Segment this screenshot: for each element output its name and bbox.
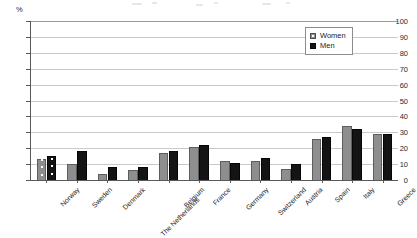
bar-women: [67, 164, 77, 180]
x-tick: [383, 180, 384, 183]
bar-women: [251, 161, 261, 180]
bar-women: [373, 134, 383, 180]
x-tick: [352, 180, 353, 183]
bar-men: [291, 164, 301, 180]
x-axis-label: The Netherlands: [159, 196, 201, 238]
legend-label-men: Men: [320, 42, 335, 50]
bar-women: [342, 126, 352, 180]
bar-group: [245, 21, 276, 180]
bar-group: [92, 21, 123, 180]
x-axis-label: Austria: [303, 186, 323, 206]
bar-group: [215, 21, 246, 180]
scan-noise-artifact: [0, 0, 408, 12]
bar-men: [169, 151, 179, 180]
bar-group: [367, 21, 398, 180]
bar-women: [312, 139, 322, 180]
bar-women: [128, 170, 138, 180]
x-axis-label: Spain: [333, 186, 351, 204]
x-tick: [169, 180, 170, 183]
x-tick: [46, 180, 47, 183]
bar-group: [276, 21, 307, 180]
chart-legend: Women Men: [305, 27, 353, 55]
bar-men: [77, 151, 87, 180]
x-tick: [138, 180, 139, 183]
bar-men: [383, 134, 393, 180]
bar-men: [230, 163, 240, 180]
x-tick: [199, 180, 200, 183]
x-axis-label: Sweden: [90, 186, 113, 209]
bar-men: [138, 167, 148, 180]
bar-women: [98, 174, 108, 180]
bar-group: [62, 21, 93, 180]
x-axis-label: Italy: [362, 186, 376, 200]
x-tick: [107, 180, 108, 183]
bar-group: [123, 21, 154, 180]
y-axis-unit-label: %: [16, 6, 23, 14]
x-tick: [291, 180, 292, 183]
bar-women: [189, 147, 199, 180]
bar-group: [153, 21, 184, 180]
bar-group: [31, 21, 62, 180]
bar-men: [199, 145, 209, 180]
x-axis-label: Greece: [395, 186, 416, 207]
bar-women: [159, 153, 169, 180]
bar-men: [322, 137, 332, 180]
women-swatch-icon: [310, 33, 316, 39]
x-axis-label: Norway: [59, 186, 81, 208]
bar-men: [108, 167, 118, 180]
x-axis-label: Germany: [244, 186, 269, 211]
bar-women: [220, 161, 230, 180]
x-axis-line: [30, 180, 398, 181]
bar-women: [281, 169, 291, 180]
legend-label-women: Women: [320, 32, 346, 40]
bar-men: [47, 156, 57, 180]
bar-men: [261, 158, 271, 180]
x-tick: [322, 180, 323, 183]
x-axis-label: Denmark: [122, 186, 147, 211]
x-tick: [230, 180, 231, 183]
bar-group: [184, 21, 215, 180]
x-tick: [260, 180, 261, 183]
men-swatch-icon: [310, 43, 316, 49]
bar-women: [37, 159, 47, 180]
legend-item-women: Women: [310, 31, 346, 41]
bar-men: [352, 129, 362, 180]
x-tick: [77, 180, 78, 183]
x-axis-label: France: [212, 186, 232, 206]
legend-item-men: Men: [310, 41, 346, 51]
